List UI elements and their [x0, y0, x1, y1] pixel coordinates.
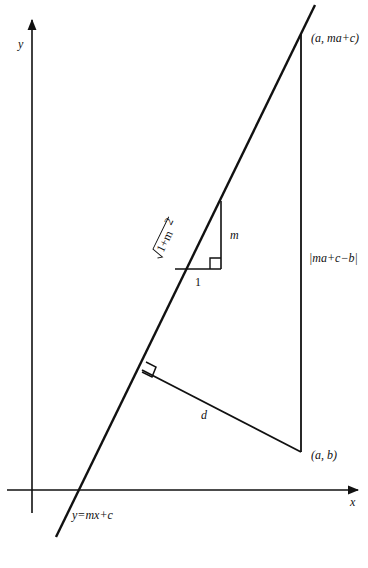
run-label: 1 — [195, 275, 201, 289]
distance-segment — [142, 370, 301, 452]
right-angle-marker-triangle — [210, 258, 221, 269]
rise-label: m — [230, 228, 239, 242]
diagram-canvas: y x (a, ma+c) (a, b) |ma+c−b| d y=mx+c m… — [0, 0, 368, 568]
x-axis-label: x — [349, 495, 356, 509]
distance-label: d — [201, 408, 208, 422]
vertical-segment-label: |ma+c−b| — [309, 251, 358, 265]
svg-text:1+m: 1+m — [153, 228, 176, 255]
right-angle-marker-foot — [142, 362, 156, 377]
line-equation-label: y=mx+c — [71, 508, 114, 522]
upper-point-label: (a, ma+c) — [311, 31, 359, 45]
main-line — [56, 5, 315, 537]
lower-point-label: (a, b) — [311, 448, 337, 462]
hypotenuse-label: 1+m 2 — [146, 215, 181, 261]
y-axis-label: y — [17, 37, 24, 51]
